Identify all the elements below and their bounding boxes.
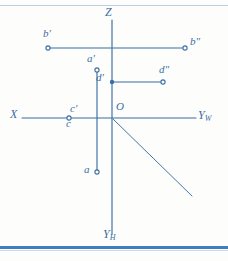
point-label-c-prime: c' <box>70 103 77 114</box>
point-marker-b-prime <box>46 46 50 50</box>
origin-label: O <box>116 101 124 112</box>
point-marker-d-double <box>161 80 165 84</box>
point-label-b-prime: b' <box>43 28 51 39</box>
point-label-a: a <box>84 164 90 175</box>
point-label-a-prime: a' <box>87 53 95 64</box>
z-axis-label: Z <box>105 6 112 18</box>
x-axis-label: X <box>10 108 17 120</box>
point-marker-b-double <box>183 46 187 50</box>
drawing-sheet: Z X YW YH O b' b″ a' d' d″ c' c a <box>0 0 228 261</box>
axis-bisector <box>113 119 192 196</box>
point-marker-d-prime <box>110 80 114 84</box>
yw-axis-label: YW <box>198 109 211 123</box>
point-label-d-prime: d' <box>96 72 104 83</box>
yh-axis-label: YH <box>103 228 115 242</box>
point-label-c: c <box>66 118 71 129</box>
point-label-d-double: d″ <box>159 64 169 75</box>
point-marker-a <box>95 170 99 174</box>
point-label-b-double: b″ <box>190 36 200 47</box>
yw-subscript: W <box>205 114 212 123</box>
yh-subscript: H <box>110 233 116 242</box>
